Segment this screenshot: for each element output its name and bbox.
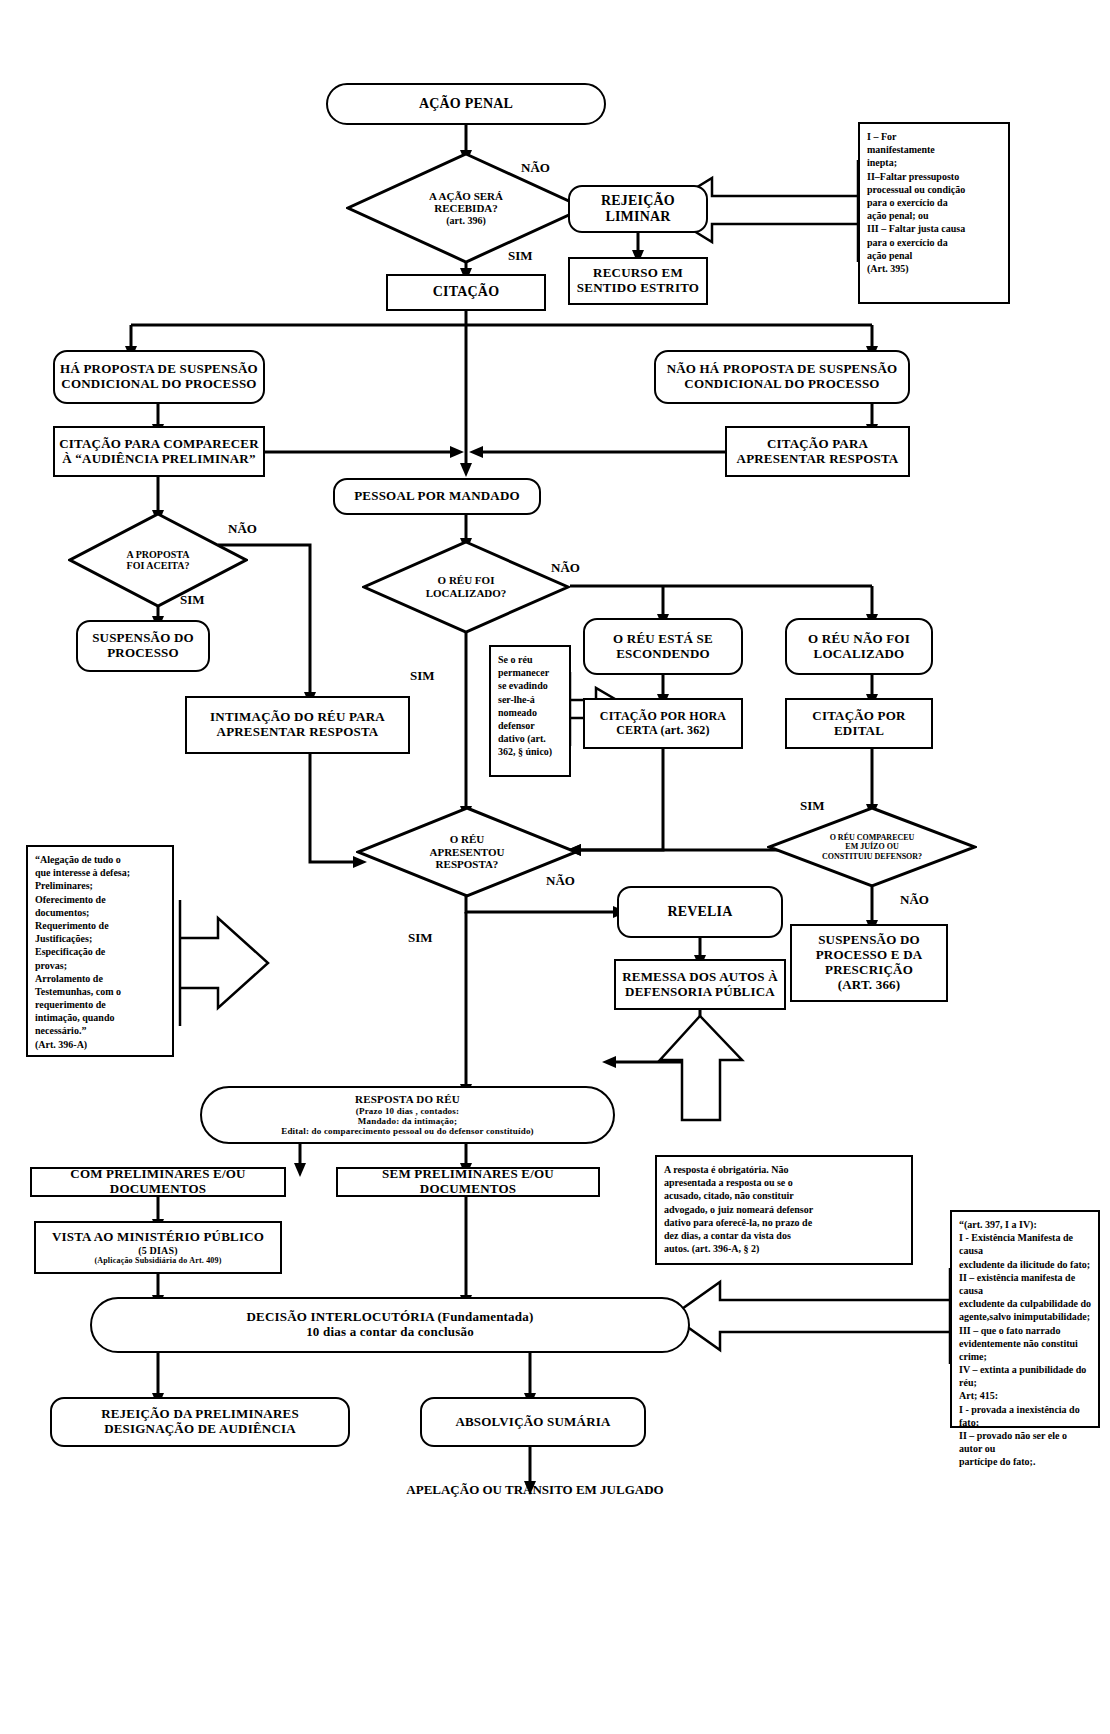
node-label-line-1: O RÉU ESTÁ SE xyxy=(613,632,713,647)
note-line: “(art. 397, I a IV): xyxy=(959,1218,1091,1231)
note-line: Se o réu xyxy=(498,653,562,666)
node-label: ABSOLVIÇÃO SUMÁRIA xyxy=(455,1415,610,1430)
note-line: manifestamente xyxy=(867,143,1001,156)
node-label-line-2: EDITAL xyxy=(812,724,905,739)
node-citacao[interactable]: CITAÇÃO xyxy=(386,274,546,311)
node-suspensao-processo-prescricao[interactable]: SUSPENSÃO DO PROCESSO E DA PRESCRIÇÃO (A… xyxy=(790,924,948,1002)
note-line: Preliminares; xyxy=(35,879,165,892)
edge-label-text: NÃO xyxy=(551,560,580,575)
note-line: II – existência manifesta de causa xyxy=(959,1271,1091,1297)
decision-proposta-aceita[interactable]: A PROPOSTA FOI ACEITA? xyxy=(68,512,248,608)
decision-label: A AÇÃO SERÁ RECEBIDA? (art. 396) xyxy=(346,152,586,264)
decision-line-3: (art. 396) xyxy=(429,215,503,227)
note-line: I - Existência Manifesta de causa xyxy=(959,1231,1091,1257)
node-remessa-defensoria-publica[interactable]: REMESSA DOS AUTOS À DEFENSORIA PÚBLICA xyxy=(614,959,786,1010)
note-line: Justificações; xyxy=(35,932,165,945)
flowchart-canvas: AÇÃO PENAL A AÇÃO SERÁ RECEBIDA? (art. 3… xyxy=(0,0,1110,1734)
node-label-line-1: RECURSO EM xyxy=(577,266,699,281)
edge-label-text: SIM xyxy=(408,930,433,945)
decision-line-2: FOI ACEITA? xyxy=(127,560,190,572)
node-rejeicao-preliminares-audiencia[interactable]: REJEIÇÃO DA PRELIMINARES DESIGNAÇÃO DE A… xyxy=(50,1397,350,1447)
node-pessoal-por-mandado[interactable]: PESSOAL POR MANDADO xyxy=(333,478,541,515)
node-intimacao-reu-apresentar-resposta[interactable]: INTIMAÇÃO DO RÉU PARA APRESENTAR RESPOST… xyxy=(185,696,410,754)
node-label-line-1: CITAÇÃO POR xyxy=(812,709,905,724)
note-line: I - provada a inexistência do fato; xyxy=(959,1403,1091,1429)
note-line: Arrolamento de xyxy=(35,972,165,985)
node-label-line-2: (5 DIAS) xyxy=(52,1245,264,1257)
edge-label-text: NÃO xyxy=(546,873,575,888)
note-art-395: I – For manifestamente inepta; II–Faltar… xyxy=(858,122,1010,304)
note-line: ser-lhe-á xyxy=(498,693,562,706)
node-label-line-4: Edital: do comparecimento pessoal ou do … xyxy=(281,1126,534,1136)
edge-label-text: NÃO xyxy=(228,521,257,536)
edge-label-nao-3: NÃO xyxy=(551,560,580,576)
node-citacao-comparecer-audiencia[interactable]: CITAÇÃO PARA COMPARECER À “AUDIÊNCIA PRE… xyxy=(53,426,265,477)
note-line: II – provado não ser ele o autor ou xyxy=(959,1429,1091,1455)
note-line: A resposta é obrigatória. Não xyxy=(664,1163,904,1176)
decision-line-1: A AÇÃO SERÁ xyxy=(429,190,503,203)
node-label-line-4: (ART. 366) xyxy=(816,978,923,993)
decision-label: O RÉU APRESENTOU RESPOSTA? xyxy=(356,806,578,898)
note-line: II–Faltar pressuposto xyxy=(867,170,1001,183)
note-art-396-a: “Alegação de tudo o que interesse à defe… xyxy=(26,845,174,1057)
node-citacao-por-edital[interactable]: CITAÇÃO POR EDITAL xyxy=(785,698,933,749)
note-line: documentos; xyxy=(35,906,165,919)
node-label-line-2: APRESENTAR RESPOSTA xyxy=(737,452,899,467)
edge-label-nao-5: NÃO xyxy=(546,873,575,889)
decision-label: O RÉU COMPARECEU EM JUÍZO OU CONSTITUIU … xyxy=(767,806,977,888)
node-vista-ministerio-publico[interactable]: VISTA AO MINISTÉRIO PÚBLICO (5 DIAS) (Ap… xyxy=(34,1221,282,1274)
node-sem-preliminares-documentos[interactable]: SEM PRELIMINARES E/OU DOCUMENTOS xyxy=(336,1167,600,1197)
node-rejeicao-liminar[interactable]: REJEIÇÃO LIMINAR xyxy=(568,185,708,233)
note-resposta-obrigatoria: A resposta é obrigatória. Não apresentad… xyxy=(655,1155,913,1265)
note-line: ação penal xyxy=(867,249,1001,262)
node-label: SEM PRELIMINARES E/OU DOCUMENTOS xyxy=(338,1167,598,1197)
node-label-line-1: CITAÇÃO PARA COMPARECER xyxy=(59,437,259,452)
note-line: defensor xyxy=(498,719,562,732)
node-absolvicao-sumaria[interactable]: ABSOLVIÇÃO SUMÁRIA xyxy=(420,1397,646,1447)
edge-label-sim-5: SIM xyxy=(408,930,433,946)
node-nao-ha-proposta-suspensao[interactable]: NÃO HÁ PROPOSTA DE SUSPENSÃO CONDICIONAL… xyxy=(654,350,910,404)
node-label-line-1: CITAÇÃO PARA xyxy=(737,437,899,452)
node-citacao-por-hora-certa[interactable]: CITAÇÃO POR HORA CERTA (art. 362) xyxy=(583,698,743,749)
node-label-line-2: CONDICIONAL DO PROCESSO xyxy=(667,377,898,392)
node-revelia[interactable]: REVELIA xyxy=(617,886,783,938)
node-recurso-sentido-estrito[interactable]: RECURSO EM SENTIDO ESTRITO xyxy=(568,257,708,305)
node-label-line-1: INTIMAÇÃO DO RÉU PARA xyxy=(210,710,385,725)
node-label-line-1: DECISÃO INTERLOCUTÓRIA (Fundamentada) xyxy=(247,1310,534,1325)
decision-reu-apresentou-resposta[interactable]: O RÉU APRESENTOU RESPOSTA? xyxy=(356,806,578,898)
edge-label-text: SIM xyxy=(508,248,533,263)
node-label-line-2: LIMINAR xyxy=(601,209,675,225)
note-line: acusado, citado, não constituir xyxy=(664,1189,904,1202)
node-resposta-do-reu[interactable]: RESPOSTA DO RÉU (Prazo 10 dias , contado… xyxy=(200,1086,615,1144)
node-label-line-1: REJEIÇÃO xyxy=(601,193,675,209)
note-line: Oferecimento de xyxy=(35,893,165,906)
node-decisao-interlocutoria[interactable]: DECISÃO INTERLOCUTÓRIA (Fundamentada) 10… xyxy=(90,1297,690,1353)
decision-line-3: RESPOSTA? xyxy=(430,858,505,871)
note-line: Art; 415: xyxy=(959,1389,1091,1402)
node-label: APELAÇÃO OU TRÂNSITO EM JULGADO xyxy=(406,1482,663,1497)
decision-reu-localizado[interactable]: O RÉU FOI LOCALIZADO? xyxy=(362,540,570,634)
note-line: se evadindo xyxy=(498,679,562,692)
note-line: 362, § único) xyxy=(498,745,562,758)
node-suspensao-do-processo[interactable]: SUSPENSÃO DO PROCESSO xyxy=(76,620,210,672)
node-label-line-2: À “AUDIÊNCIA PRELIMINAR” xyxy=(59,452,259,467)
node-label-line-2: 10 dias a contar da conclusão xyxy=(247,1325,534,1340)
node-reu-esta-se-escondendo[interactable]: O RÉU ESTÁ SE ESCONDENDO xyxy=(583,618,743,675)
node-citacao-apresentar-resposta[interactable]: CITAÇÃO PARA APRESENTAR RESPOSTA xyxy=(725,426,910,477)
edge-label-text: SIM xyxy=(410,668,435,683)
note-line: dativo (art. xyxy=(498,732,562,745)
note-line: (Art. 395) xyxy=(867,262,1001,275)
decision-line-1: O RÉU xyxy=(430,833,505,846)
decision-acao-recebida[interactable]: A AÇÃO SERÁ RECEBIDA? (art. 396) xyxy=(346,152,586,264)
edge-label-sim-1: SIM xyxy=(508,248,533,264)
note-line: intimação, quando xyxy=(35,1011,165,1024)
node-com-preliminares-documentos[interactable]: COM PRELIMINARES E/OU DOCUMENTOS xyxy=(30,1167,286,1197)
node-label-line-1: SUSPENSÃO DO xyxy=(92,631,194,646)
node-acao-penal[interactable]: AÇÃO PENAL xyxy=(326,83,606,125)
node-ha-proposta-suspensao[interactable]: HÁ PROPOSTA DE SUSPENSÃO CONDICIONAL DO … xyxy=(53,350,265,404)
decision-line-2: APRESENTOU xyxy=(430,846,505,859)
edge-label-sim-3: SIM xyxy=(410,668,435,684)
node-reu-nao-foi-localizado[interactable]: O RÉU NÃO FOI LOCALIZADO xyxy=(785,618,933,675)
decision-reu-compareceu-em-juizo[interactable]: O RÉU COMPARECEU EM JUÍZO OU CONSTITUIU … xyxy=(767,806,977,888)
node-label: CITAÇÃO xyxy=(433,284,499,300)
